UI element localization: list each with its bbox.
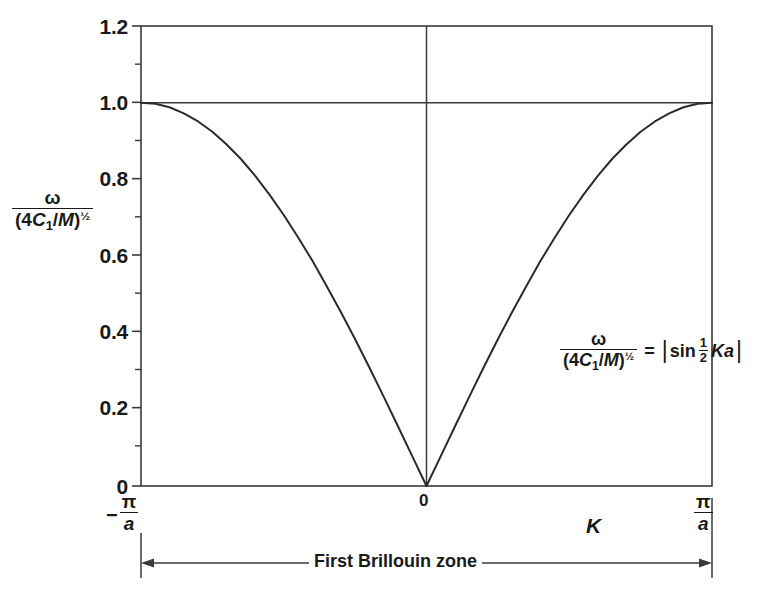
x-tick-minus-sign: − xyxy=(106,505,118,525)
annotation-sin: sin xyxy=(670,342,696,360)
y-axis-fraction: ω (4C1/M)½ xyxy=(12,188,93,233)
x-axis-label: K xyxy=(586,515,601,536)
x-tick-right-fraction: π a xyxy=(694,492,713,535)
annotation-half-denominator: 2 xyxy=(699,351,708,366)
y-denom-c-subscript: 1 xyxy=(46,218,53,233)
y-tick-label-1-2: 1.2 xyxy=(84,16,128,37)
y-tick-label-0-8: 0.8 xyxy=(84,168,128,189)
y-denom-open: (4 xyxy=(15,209,32,230)
y-denom-m: M xyxy=(58,209,74,230)
brillouin-zone-label: First Brillouin zone xyxy=(309,552,482,570)
x-tick-right-a: a xyxy=(694,513,713,535)
y-tick-label-1-0: 1.0 xyxy=(84,92,128,113)
annotation-one-half: 1 2 xyxy=(699,336,708,366)
dispersion-equation-annotation: ω (4C1/M)½ = | sin 1 2 Ka | xyxy=(560,330,742,372)
annotation-ka: Ka xyxy=(711,342,734,360)
y-tick-label-0-6: 0.6 xyxy=(84,245,128,266)
x-tick-label-zero: 0 xyxy=(419,492,428,509)
annotation-numerator: ω xyxy=(560,330,637,350)
annotation-denominator: (4C1/M)½ xyxy=(560,350,637,372)
phonon-dispersion-figure: 1.2 1.0 0.8 0.6 0.4 0.2 0 ω (4C1/M)½ ω (… xyxy=(0,0,777,594)
annotation-denom-c-subscript: 1 xyxy=(592,359,599,373)
annotation-denom-m: M xyxy=(604,350,619,370)
x-tick-label-minus-pi-over-a: − π a xyxy=(106,492,138,535)
x-tick-left-fraction: π a xyxy=(120,492,139,535)
y-axis-numerator: ω xyxy=(12,188,93,209)
y-tick-label-0-2: 0.2 xyxy=(84,397,128,418)
annotation-denom-c: C xyxy=(579,350,592,370)
y-major-ticks xyxy=(132,26,141,486)
annotation-denom-open: (4 xyxy=(563,350,579,370)
y-tick-label-0-4: 0.4 xyxy=(84,321,128,342)
x-tick-label-pi-over-a: π a xyxy=(694,492,713,535)
annotation-denom-exponent: ½ xyxy=(625,350,634,362)
y-denom-exponent: ½ xyxy=(80,209,90,222)
y-denom-c: C xyxy=(32,209,46,230)
annotation-fraction: ω (4C1/M)½ xyxy=(560,330,637,372)
y-axis-denominator: (4C1/M)½ xyxy=(12,209,93,233)
x-tick-left-pi: π xyxy=(120,492,139,513)
annotation-equals: = xyxy=(644,342,655,360)
bz-arrow-right-head xyxy=(699,559,712,568)
bz-arrow-left-head xyxy=(141,559,154,568)
annotation-abs-open: | xyxy=(662,339,668,362)
y-axis-label: ω (4C1/M)½ xyxy=(12,188,93,233)
annotation-half-numerator: 1 xyxy=(699,336,708,351)
x-tick-right-pi: π xyxy=(694,492,713,513)
annotation-rhs: | sin 1 2 Ka | xyxy=(662,336,742,366)
annotation-abs-close: | xyxy=(736,339,742,362)
x-tick-left-a: a xyxy=(120,513,139,535)
